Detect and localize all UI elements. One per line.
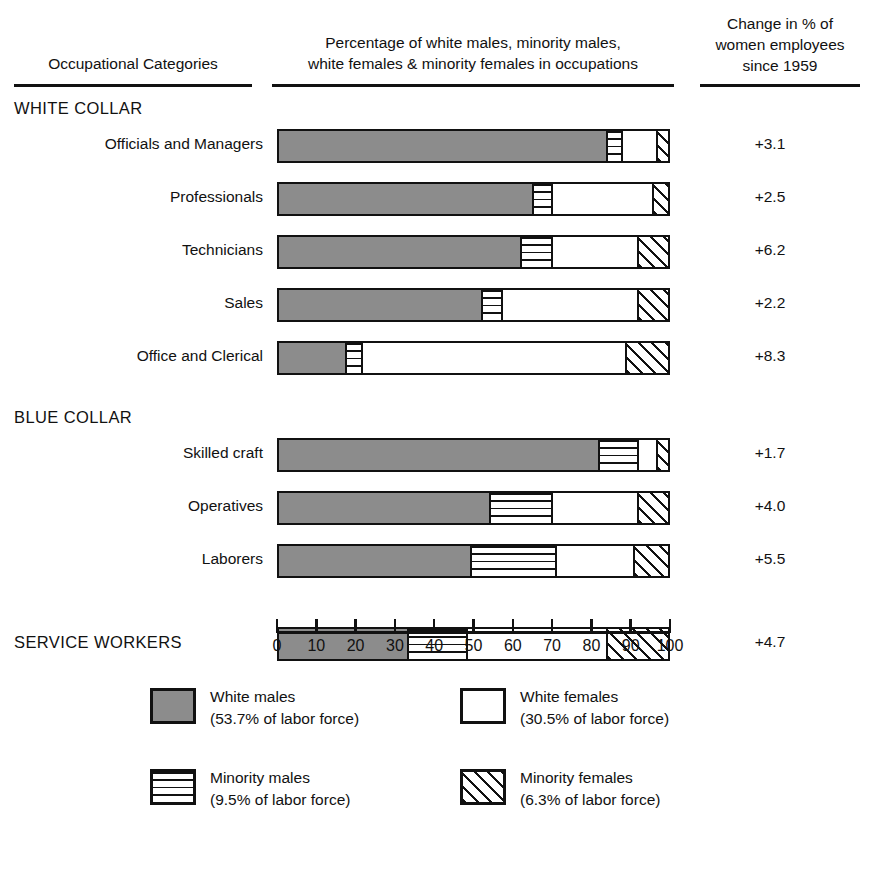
legend-swatch-solid-gray-icon [150, 688, 196, 724]
group-heading-white-collar: WHITE COLLAR [0, 95, 875, 121]
legend-label: White females [520, 686, 669, 708]
bar-segment-white-females [551, 493, 637, 523]
stacked-bar [277, 182, 670, 216]
x-axis-tick-label: 50 [454, 637, 494, 655]
legend-item-white-females[interactable]: White females(30.5% of labor force) [460, 686, 770, 729]
legend-text: Minority females(6.3% of labor force) [520, 767, 660, 810]
x-axis-tick-label: 0 [257, 637, 297, 655]
bar-segment-minority-males [481, 290, 500, 320]
header-change-line2: women employees [690, 35, 870, 56]
chart-rows: WHITE COLLAROfficials and Managers+3.1Pr… [0, 95, 875, 681]
legend-note: (9.5% of labor force) [210, 789, 350, 811]
bar-segment-minority-males [345, 343, 361, 373]
bar-segment-white-males [279, 343, 345, 373]
bar-segment-white-males [279, 546, 470, 576]
row-label-sales: Sales [0, 294, 263, 312]
bar-segment-minority-males [598, 440, 637, 470]
legend-swatch-diagonal-hatch-icon [460, 769, 506, 805]
row-label-skilled-craft: Skilled craft [0, 444, 263, 462]
stacked-bar [277, 288, 670, 322]
legend-text: White males(53.7% of labor force) [210, 686, 359, 729]
bar-segment-white-females [621, 131, 656, 161]
bar-segment-minority-females [656, 131, 668, 161]
header-change-line3: since 1959 [690, 56, 870, 77]
header-percentage-line1: Percentage of white males, minority male… [268, 33, 678, 54]
row-label-laborers: Laborers [0, 550, 263, 568]
row-change-value: +3.1 [690, 135, 850, 153]
header-rule-right [700, 84, 860, 87]
row-change-value: +5.5 [690, 550, 850, 568]
x-axis-tick [669, 619, 672, 633]
stacked-bar [277, 438, 670, 472]
stacked-bar [277, 235, 670, 269]
chart-row: Skilled craft+1.7 [0, 430, 875, 483]
legend-text: White females(30.5% of labor force) [520, 686, 669, 729]
legend-swatch-horizontal-lines-icon [150, 769, 196, 805]
chart-legend: White males(53.7% of labor force)White f… [150, 686, 770, 849]
row-label-professionals: Professionals [0, 188, 263, 206]
chart-row: Technicians+6.2 [0, 227, 875, 280]
bar-segment-white-females [555, 546, 633, 576]
bar-segment-minority-males [470, 546, 556, 576]
group-spacer [0, 589, 875, 619]
bar-segment-minority-females [625, 343, 668, 373]
bar-segment-white-males [279, 290, 481, 320]
bar-segment-minority-females [633, 546, 668, 576]
legend-item-minority-males[interactable]: Minority males(9.5% of labor force) [150, 767, 460, 810]
x-axis-tick-label: 80 [571, 637, 611, 655]
stacked-bar [277, 544, 670, 578]
legend-text: Minority males(9.5% of labor force) [210, 767, 350, 810]
bar-segment-minority-females [637, 290, 668, 320]
row-change-value: +1.7 [690, 444, 850, 462]
bar-segment-white-females [501, 290, 637, 320]
x-axis-tick [276, 619, 279, 633]
header-occupational-categories: Occupational Categories [8, 54, 258, 75]
legend-item-white-males[interactable]: White males(53.7% of labor force) [150, 686, 460, 729]
row-change-value: +4.0 [690, 497, 850, 515]
x-axis-tick-label: 20 [336, 637, 376, 655]
group-heading-blue-collar: BLUE COLLAR [0, 404, 875, 430]
bar-segment-white-males [279, 493, 489, 523]
x-axis-tick-label: 70 [532, 637, 572, 655]
x-axis: 0102030405060708090100 [277, 619, 670, 620]
legend-label: Minority males [210, 767, 350, 789]
bar-segment-minority-males [606, 131, 622, 161]
header-rule-middle [272, 84, 674, 87]
x-axis-tick [590, 619, 593, 633]
bar-segment-minority-females [652, 184, 668, 214]
header-rule-left [14, 84, 252, 87]
row-label-service-workers: SERVICE WORKERS [14, 633, 277, 652]
chart-row: Office and Clerical+8.3 [0, 333, 875, 386]
bar-segment-minority-males [489, 493, 551, 523]
bar-segment-minority-females [637, 237, 668, 267]
chart-row: Operatives+4.0 [0, 483, 875, 536]
bar-segment-minority-females [656, 440, 668, 470]
group-spacer [0, 386, 875, 404]
x-axis-tick-label: 30 [375, 637, 415, 655]
header-change-line1: Change in % of [690, 14, 870, 35]
x-axis-tick [433, 619, 436, 633]
x-axis-tick-label: 10 [296, 637, 336, 655]
x-axis-tick-label: 60 [493, 637, 533, 655]
legend-row: Minority males(9.5% of labor force)Minor… [150, 767, 770, 810]
chart-row: Sales+2.2 [0, 280, 875, 333]
header-percentage-title: Percentage of white males, minority male… [268, 33, 678, 75]
row-label-officials-and-managers: Officials and Managers [0, 135, 263, 153]
row-change-value: +2.5 [690, 188, 850, 206]
legend-item-minority-females[interactable]: Minority females(6.3% of labor force) [460, 767, 770, 810]
row-change-value: +2.2 [690, 294, 850, 312]
row-change-value: +8.3 [690, 347, 850, 365]
legend-note: (53.7% of labor force) [210, 708, 359, 730]
bar-segment-minority-males [520, 237, 551, 267]
row-label-operatives: Operatives [0, 497, 263, 515]
chart-row: Professionals+2.5 [0, 174, 875, 227]
x-axis-tick-label: 90 [611, 637, 651, 655]
row-change-value: +6.2 [690, 241, 850, 259]
legend-label: White males [210, 686, 359, 708]
legend-note: (6.3% of labor force) [520, 789, 660, 811]
row-label-office-and-clerical: Office and Clerical [0, 347, 263, 365]
bar-segment-minority-males [532, 184, 551, 214]
legend-row: White males(53.7% of labor force)White f… [150, 686, 770, 729]
chart-row: Officials and Managers+3.1 [0, 121, 875, 174]
x-axis-tick [472, 619, 475, 633]
